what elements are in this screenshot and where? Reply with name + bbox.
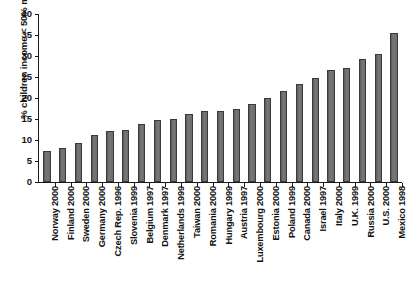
y-axis-tick-label: 5 [12,156,32,166]
x-axis-line [38,182,402,183]
bar-slot [59,14,66,182]
bar [233,109,240,183]
bar [375,54,382,182]
bar-slot [106,14,113,182]
x-axis-tick-label: Denmark 1997 [160,186,170,247]
bar [312,78,319,182]
bar-slot [248,14,255,182]
bar [248,104,255,182]
x-axis-tick-label: Netherlands 1999 [176,186,186,260]
x-axis-tick-label: Hungary 1999 [224,186,234,245]
y-axis-title: % children income < 50% median [18,0,29,131]
y-axis-tick-label: 25 [12,72,32,82]
plot-area: 0510152025303540 [38,14,402,183]
x-axis-tick-label: Czech Rep. 1996 [113,186,123,256]
x-axis-tick-label: Germany 2000 [97,186,107,247]
y-axis-tick-label: 40 [12,9,32,19]
bar-slot [185,14,192,182]
bar [59,148,66,182]
x-axis-tick-label: Canada 2000 [302,186,312,241]
bar [264,98,271,182]
bar-slot [138,14,145,182]
x-axis-tick-label: Poland 1999 [287,186,297,238]
x-axis-tick-label: Slovenia 1999 [129,186,139,245]
x-axis-tick-label: Luxembourg 2000 [255,186,265,263]
y-axis-tick-mark [35,182,39,183]
bar [390,33,397,182]
bar [106,131,113,182]
bar [43,151,50,183]
bar [201,111,208,182]
x-axis-tick-label: Mexico 1998 [397,186,407,239]
x-axis-tick-label: Italy 2000 [334,186,344,226]
x-axis-tick-label: Sweden 2000 [81,186,91,242]
bar-slot [154,14,161,182]
bar [91,135,98,182]
bar [75,143,82,182]
x-axis-tick-label: Romania 2000 [208,186,218,246]
y-axis-tick-label: 35 [12,30,32,40]
bar-slot [343,14,350,182]
bar-slot [170,14,177,182]
bar-slot [264,14,271,182]
bar [296,84,303,182]
bar [280,91,287,182]
x-axis-tick-label: Belgium 1997 [145,186,155,244]
x-axis-tick-label: Taiwan 2000 [192,186,202,238]
x-axis-tick-label: Israel 1997 [318,186,328,231]
bar [185,114,192,182]
x-axis-tick-label: Estonia 2000 [271,186,281,240]
bar-slot [217,14,224,182]
bar [122,130,129,182]
bar-slot [122,14,129,182]
y-axis-tick-label: 30 [12,51,32,61]
x-axis-tick-label: Norway 2000 [50,186,60,241]
x-axis-labels: Norway 2000Finland 2000Sweden 2000German… [38,186,402,291]
bar-slot [75,14,82,182]
y-axis-tick-label: 20 [12,93,32,103]
bar-slot [296,14,303,182]
bar-slot [233,14,240,182]
bar [170,119,177,182]
y-axis-tick-label: 0 [12,177,32,187]
bar-slot [359,14,366,182]
bar-slot [91,14,98,182]
x-axis-tick-label: U.S. 2000 [381,186,391,226]
bar-chart: % children income < 50% median 051015202… [0,0,407,293]
y-axis-tick-label: 10 [12,135,32,145]
y-axis-tick-label: 15 [12,114,32,124]
x-axis-tick-label: Finland 2000 [66,186,76,240]
x-axis-tick-label: Austria 1997 [239,186,249,239]
bar [138,124,145,182]
bar-slot [201,14,208,182]
bar [359,59,366,182]
bar [217,111,224,182]
bar-slot [312,14,319,182]
bar [327,70,334,182]
x-axis-tick-label: U.K. 1999 [350,186,360,226]
bar-slot [280,14,287,182]
bar-slot [327,14,334,182]
x-axis-tick-label: Russia 2000 [366,186,376,238]
bar-slot [375,14,382,182]
bar [343,68,350,182]
bar-slot [390,14,397,182]
bar [154,120,161,182]
bar-series [39,14,402,182]
bar-slot [43,14,50,182]
